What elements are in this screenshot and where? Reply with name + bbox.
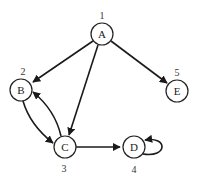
- node-e-label: E: [174, 85, 181, 97]
- node-e[interactable]: E 5: [166, 67, 188, 103]
- edge-a-e: [111, 41, 167, 83]
- node-c[interactable]: C 3: [54, 136, 76, 174]
- node-d-number: 4: [132, 164, 137, 175]
- node-c-number: 3: [62, 163, 67, 174]
- edge-c-b: [33, 92, 61, 136]
- edge-d-d: [143, 140, 162, 155]
- node-b[interactable]: B 2: [10, 66, 32, 102]
- node-d-label: D: [130, 141, 138, 153]
- node-a[interactable]: A 1: [91, 10, 113, 46]
- directed-graph: A 1 B 2 C 3 D 4 E 5: [0, 0, 200, 180]
- node-b-number: 2: [21, 66, 26, 77]
- node-c-label: C: [61, 141, 68, 153]
- node-e-number: 5: [175, 67, 180, 78]
- node-a-number: 1: [100, 10, 105, 21]
- node-b-label: B: [17, 84, 24, 96]
- node-d[interactable]: D 4: [123, 136, 145, 175]
- edge-a-b: [33, 41, 93, 82]
- edge-a-c: [69, 45, 98, 135]
- node-a-label: A: [98, 28, 106, 40]
- graph-canvas: A 1 B 2 C 3 D 4 E 5: [0, 0, 200, 180]
